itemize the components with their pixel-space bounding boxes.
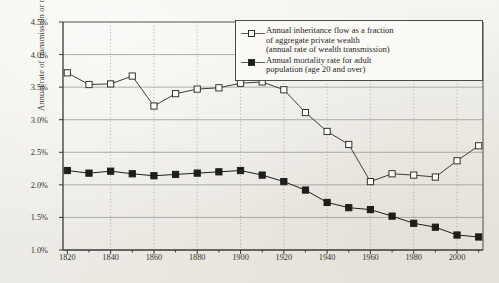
legend-marker-filled-square bbox=[240, 58, 266, 68]
data-point-inheritance_flow bbox=[151, 103, 157, 109]
data-point-inheritance_flow bbox=[108, 81, 114, 87]
data-point-inheritance_flow bbox=[194, 86, 200, 92]
data-point-mortality_rate bbox=[367, 207, 373, 213]
series-line-inheritance_flow bbox=[67, 73, 478, 182]
data-point-inheritance_flow bbox=[432, 174, 438, 180]
data-point-mortality_rate bbox=[302, 187, 308, 193]
data-point-mortality_rate bbox=[108, 168, 114, 174]
data-point-inheritance_flow bbox=[346, 141, 352, 147]
data-point-mortality_rate bbox=[86, 170, 92, 176]
legend-label: Annual mortality rate for adultpopulatio… bbox=[266, 56, 371, 75]
data-point-inheritance_flow bbox=[281, 87, 287, 93]
legend-label: Annual inheritance flow as a fractionof … bbox=[266, 26, 394, 55]
data-point-mortality_rate bbox=[476, 234, 482, 240]
data-point-inheritance_flow bbox=[172, 91, 178, 97]
data-point-mortality_rate bbox=[151, 173, 157, 179]
data-point-inheritance_flow bbox=[389, 171, 395, 177]
data-point-inheritance_flow bbox=[476, 143, 482, 149]
data-point-mortality_rate bbox=[281, 179, 287, 185]
data-point-inheritance_flow bbox=[129, 73, 135, 79]
data-point-mortality_rate bbox=[432, 224, 438, 230]
data-point-mortality_rate bbox=[172, 171, 178, 177]
legend-label-line: population (age 20 and over) bbox=[266, 65, 371, 75]
legend-entry: Annual inheritance flow as a fractionof … bbox=[240, 26, 477, 55]
legend-entry: Annual mortality rate for adultpopulatio… bbox=[240, 56, 477, 75]
data-point-inheritance_flow bbox=[367, 179, 373, 185]
data-point-mortality_rate bbox=[411, 220, 417, 226]
data-point-inheritance_flow bbox=[64, 70, 70, 76]
data-point-mortality_rate bbox=[194, 170, 200, 176]
data-point-mortality_rate bbox=[259, 172, 265, 178]
data-point-mortality_rate bbox=[389, 213, 395, 219]
data-point-mortality_rate bbox=[129, 171, 135, 177]
data-point-mortality_rate bbox=[324, 199, 330, 205]
data-point-inheritance_flow bbox=[216, 85, 222, 91]
data-point-inheritance_flow bbox=[86, 81, 92, 87]
data-point-mortality_rate bbox=[216, 169, 222, 175]
data-point-mortality_rate bbox=[346, 205, 352, 211]
chart-figure: Annual rate of transmission or mortality… bbox=[0, 0, 499, 283]
data-point-mortality_rate bbox=[237, 167, 243, 173]
data-point-inheritance_flow bbox=[411, 172, 417, 178]
legend-marker-open-square bbox=[240, 28, 266, 38]
data-point-inheritance_flow bbox=[302, 109, 308, 115]
data-point-inheritance_flow bbox=[454, 158, 460, 164]
chart-legend: Annual inheritance flow as a fractionof … bbox=[235, 20, 483, 81]
series-line-mortality_rate bbox=[67, 171, 478, 237]
data-point-mortality_rate bbox=[64, 167, 70, 173]
legend-label-line: (annual rate of wealth transmission) bbox=[266, 45, 394, 55]
data-point-mortality_rate bbox=[454, 232, 460, 238]
data-point-inheritance_flow bbox=[237, 80, 243, 86]
data-point-inheritance_flow bbox=[324, 128, 330, 134]
